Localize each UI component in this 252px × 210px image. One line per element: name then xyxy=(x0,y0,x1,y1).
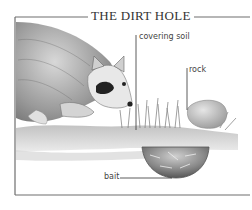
diagram-frame: THE DIRT HOLE covering soil rock bait xyxy=(0,0,252,210)
rock xyxy=(187,100,226,128)
label-covering-soil: covering soil xyxy=(139,32,190,42)
diagram-title: THE DIRT HOLE xyxy=(88,8,194,24)
label-rock: rock xyxy=(189,65,206,75)
label-bait: bait xyxy=(104,172,119,182)
bait-hole xyxy=(142,147,209,178)
raccoon xyxy=(16,22,133,124)
illustration xyxy=(0,0,252,210)
